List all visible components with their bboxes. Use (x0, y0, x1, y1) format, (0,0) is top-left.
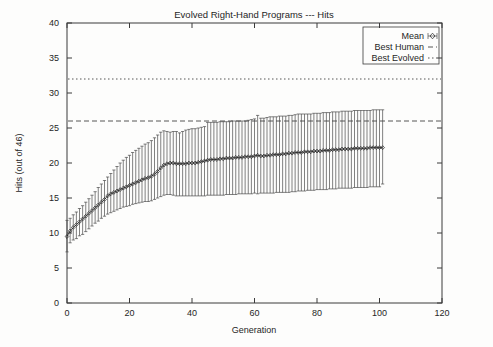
mean-line-path (67, 148, 383, 237)
x-tick-label: 20 (124, 308, 134, 318)
y-tick-label: 0 (54, 298, 59, 308)
chart-title: Evolved Right-Hand Programs --- Hits (174, 9, 334, 20)
y-tick-label: 35 (49, 53, 59, 63)
x-tick-label: 100 (372, 308, 387, 318)
legend-marker-mean (428, 33, 437, 39)
x-tick-label: 120 (434, 308, 449, 318)
x-tick-label: 60 (249, 308, 259, 318)
legend-item-best-human: Best Human (374, 42, 424, 52)
legend-item-mean: Mean (401, 31, 424, 41)
x-axis-ticks: 020406080100120 (64, 23, 449, 318)
x-tick-label: 80 (312, 308, 322, 318)
error-bars (65, 110, 384, 252)
x-tick-label: 0 (64, 308, 69, 318)
y-tick-label: 20 (49, 158, 59, 168)
y-tick-label: 40 (49, 18, 59, 28)
y-tick-label: 10 (49, 228, 59, 238)
reference-lines (68, 79, 441, 121)
chart-canvas: 0510152025303540 020406080100120 Evolved… (0, 0, 493, 347)
y-tick-label: 25 (49, 123, 59, 133)
y-tick-label: 30 (49, 88, 59, 98)
y-tick-label: 15 (49, 193, 59, 203)
legend-item-best-evolved: Best Evolved (371, 53, 424, 63)
chart-figure: 0510152025303540 020406080100120 Evolved… (0, 0, 493, 347)
x-axis-label: Generation (232, 325, 277, 335)
legend: Mean Best Human Best Evolved (363, 27, 439, 64)
y-tick-label: 5 (54, 263, 59, 273)
mean-series-line (67, 148, 383, 237)
x-tick-label: 40 (187, 308, 197, 318)
y-axis-label: Hits (out of 46) (14, 133, 24, 192)
mean-series-markers (65, 146, 384, 239)
